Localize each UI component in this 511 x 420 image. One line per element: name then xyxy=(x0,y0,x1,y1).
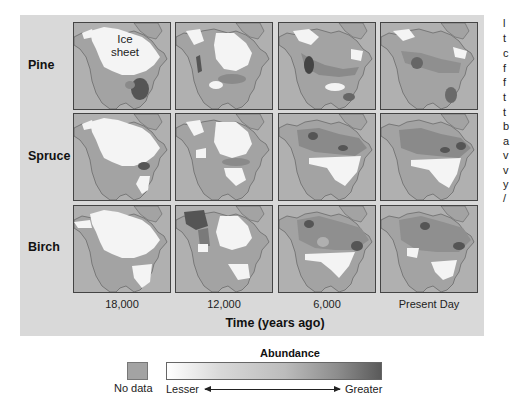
abundance-legend-title: Abundance xyxy=(230,347,350,359)
side-text-fragment: a xyxy=(503,134,509,149)
map-birch-18000 xyxy=(73,205,171,293)
side-text-fragment: l xyxy=(503,16,505,31)
side-text-fragment: t xyxy=(503,31,506,46)
row-label-spruce: Spruce xyxy=(28,149,70,163)
map-birch-6000 xyxy=(278,205,376,293)
abundance-gradient-bar xyxy=(166,362,382,380)
side-text-fragment: v xyxy=(503,148,509,163)
map-birch-12000 xyxy=(175,205,273,293)
map-birch-present xyxy=(380,205,478,293)
no-data-swatch xyxy=(127,362,148,380)
side-text-fragment: t xyxy=(503,105,506,120)
side-text-fragment: t xyxy=(503,90,506,105)
map-pine-12000 xyxy=(175,22,273,110)
side-text-fragment: f xyxy=(503,75,506,90)
lesser-label: Lesser xyxy=(166,383,199,395)
side-text-fragment: b xyxy=(503,119,509,134)
double-arrow-icon xyxy=(205,389,340,390)
side-text-fragment: / xyxy=(503,191,506,206)
col-label-12000: 12,000 xyxy=(175,298,273,310)
map-pine-6000 xyxy=(278,22,376,110)
greater-label: Greater xyxy=(345,383,382,395)
col-label-6000: 6,000 xyxy=(278,298,376,310)
side-text-fragment: c xyxy=(503,46,509,61)
side-text-fragment: f xyxy=(503,61,506,76)
row-label-birch: Birch xyxy=(28,240,60,254)
ice-sheet-annotation: Icesheet xyxy=(105,33,145,59)
map-spruce-6000 xyxy=(278,113,376,201)
map-spruce-18000 xyxy=(73,113,171,201)
map-spruce-present xyxy=(380,113,478,201)
side-text-fragment: y xyxy=(503,177,509,192)
x-axis-title: Time (years ago) xyxy=(170,316,380,330)
map-spruce-12000 xyxy=(175,113,273,201)
side-text-fragment: v xyxy=(503,163,509,178)
col-label-18000: 18,000 xyxy=(73,298,171,310)
col-label-present-day: Present Day xyxy=(380,298,478,310)
map-pine-present xyxy=(380,22,478,110)
no-data-label: No data xyxy=(114,382,153,394)
row-label-pine: Pine xyxy=(28,58,54,72)
